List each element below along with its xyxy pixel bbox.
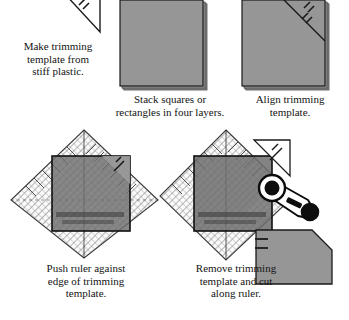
cutter-blade-hub: [265, 181, 280, 196]
step-4-illustration: [6, 126, 171, 261]
ruler-against-template-svg: [6, 126, 171, 261]
triangle-template-shape: [52, 0, 100, 32]
step-4-caption: Push ruler against edge of trimming temp…: [6, 262, 166, 300]
cutter-handle-knob: [302, 204, 319, 221]
equals-sign: [255, 238, 268, 249]
top-fabric-square: [242, 0, 325, 86]
step-2-illustration: [118, 0, 214, 92]
step-2-caption: Stack squares or rectangles in four laye…: [110, 93, 230, 118]
step-3-caption: Align trimming template.: [232, 93, 348, 118]
top-fabric-square: [120, 0, 203, 86]
step-5-caption: Remove trimming template and cut along r…: [158, 262, 314, 300]
template-aligned-svg: [240, 0, 340, 92]
stacked-fabric-squares-svg: [118, 0, 214, 92]
step-1-caption: Make trimming template from stiff plasti…: [2, 40, 114, 78]
step-3-illustration: [240, 0, 340, 92]
